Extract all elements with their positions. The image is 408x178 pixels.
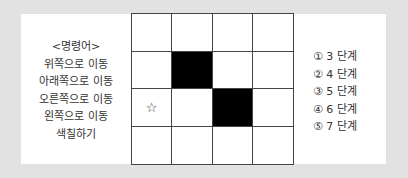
command-move-up: 위쪽으로 이동	[21, 56, 131, 74]
command-title: <명령어>	[21, 38, 131, 56]
grid-cell	[172, 89, 212, 127]
grid-cell	[253, 89, 293, 127]
grid-cell-filled	[172, 52, 212, 90]
option-4[interactable]: ④ 6 단계	[313, 101, 357, 119]
grid-cell	[132, 14, 172, 52]
command-move-left: 왼쪽으로 이동	[21, 108, 131, 126]
command-move-right: 오른쪽으로 이동	[21, 91, 131, 109]
grid-cell	[172, 14, 212, 52]
grid-cell-start: ☆	[132, 89, 172, 127]
grid-cell	[253, 14, 293, 52]
grid-cell	[213, 52, 253, 90]
grid-cell	[253, 52, 293, 90]
star-icon: ☆	[146, 100, 158, 115]
option-3[interactable]: ③ 5 단계	[313, 83, 357, 101]
grid-cell	[213, 14, 253, 52]
grid-cell	[172, 127, 212, 165]
grid-cell	[132, 127, 172, 165]
command-paint: 색칠하기	[21, 126, 131, 144]
answer-options: ① 3 단계 ② 4 단계 ③ 5 단계 ④ 6 단계 ⑤ 7 단계	[313, 48, 357, 136]
option-2[interactable]: ② 4 단계	[313, 66, 357, 84]
option-5[interactable]: ⑤ 7 단계	[313, 118, 357, 136]
grid-cell-filled	[213, 89, 253, 127]
grid-board: ☆	[131, 13, 294, 165]
grid-cell	[253, 127, 293, 165]
grid-cell	[213, 127, 253, 165]
command-list: <명령어> 위쪽으로 이동 아래쪽으로 이동 오른쪽으로 이동 왼쪽으로 이동 …	[21, 38, 131, 143]
command-move-down: 아래쪽으로 이동	[21, 73, 131, 91]
grid-cell	[132, 52, 172, 90]
option-1[interactable]: ① 3 단계	[313, 48, 357, 66]
